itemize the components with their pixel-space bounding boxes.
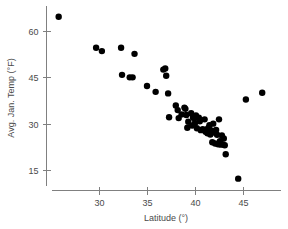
- data-point: [144, 83, 150, 89]
- data-point: [210, 120, 216, 126]
- data-point: [201, 116, 207, 122]
- data-point: [216, 116, 222, 122]
- data-point: [152, 89, 158, 95]
- data-point: [118, 44, 124, 50]
- y-tick-label-30: 30: [28, 120, 38, 130]
- x-tick-label-40: 40: [190, 198, 200, 208]
- x-axis-title: Latitude (°): [144, 213, 188, 223]
- data-point: [99, 48, 105, 54]
- plot-canvas: 15304560 30354045 Latitude (°) Avg. Jan.…: [0, 0, 288, 229]
- data-point: [235, 175, 241, 181]
- data-point: [163, 73, 169, 79]
- data-point: [55, 14, 61, 20]
- data-point: [182, 106, 188, 112]
- data-point: [131, 51, 137, 57]
- y-tick-label-60: 60: [28, 27, 38, 37]
- x-tick-label-30: 30: [94, 198, 104, 208]
- x-axis-group: 30354045: [52, 187, 281, 208]
- data-point: [222, 142, 228, 148]
- y-axis-tick-labels: 15304560: [28, 27, 38, 176]
- scatter-plot-figure: 15304560 30354045 Latitude (°) Avg. Jan.…: [0, 0, 288, 229]
- data-point: [162, 65, 168, 71]
- data-point: [243, 96, 249, 102]
- data-point: [223, 151, 229, 157]
- data-point: [166, 114, 172, 120]
- y-tick-label-45: 45: [28, 73, 38, 83]
- y-tick-label-15: 15: [28, 166, 38, 176]
- y-axis-title: Avg. Jan. Temp (°F): [6, 58, 16, 137]
- data-point: [165, 90, 171, 96]
- data-point: [259, 90, 265, 96]
- data-point: [221, 135, 227, 141]
- data-point: [93, 44, 99, 50]
- data-point: [119, 72, 125, 78]
- y-axis-group: 15304560: [28, 6, 50, 186]
- x-tick-label-45: 45: [238, 198, 248, 208]
- data-points-layer: [55, 14, 265, 182]
- x-tick-label-35: 35: [142, 198, 152, 208]
- data-point: [129, 74, 135, 80]
- x-axis-tick-labels: 30354045: [94, 198, 248, 208]
